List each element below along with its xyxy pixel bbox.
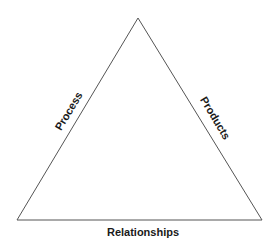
- bottom-edge-label: Relationships: [107, 226, 179, 238]
- right-edge-label: Products: [198, 94, 233, 141]
- triangle-outline: [17, 18, 262, 220]
- left-edge-label: Process: [52, 90, 84, 133]
- triangle-diagram: Process Products Relationships: [0, 0, 275, 250]
